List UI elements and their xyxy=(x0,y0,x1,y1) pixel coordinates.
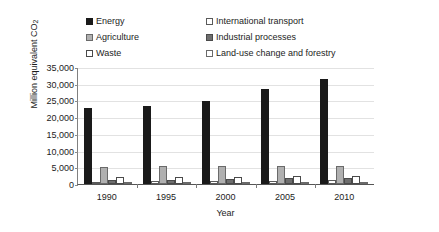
x-axis-title: Year xyxy=(77,208,374,218)
bar xyxy=(143,106,151,184)
y-axis-tick-label: 10,000 xyxy=(46,147,74,156)
legend-item-waste: Waste xyxy=(86,48,206,58)
bar xyxy=(183,182,191,184)
legend-item-energy: Energy xyxy=(86,16,206,26)
legend-label-agriculture: Agriculture xyxy=(96,32,139,42)
bar-chart: Energy International transport Agricultu… xyxy=(0,0,439,232)
y-axis-tick-labels: 35,00030,00025,00020,00015,00010,0005,00… xyxy=(29,68,74,185)
bar xyxy=(328,180,336,184)
bar xyxy=(285,178,293,184)
bar xyxy=(151,181,159,184)
legend-label-waste: Waste xyxy=(96,48,121,58)
bar-group xyxy=(315,68,374,184)
bar xyxy=(293,176,301,184)
x-axis-tick-labels: 19901995200020052010 xyxy=(77,192,374,204)
legend-label-industrial-processes: Industrial processes xyxy=(216,32,296,42)
bar xyxy=(226,179,234,184)
legend-item-agriculture: Agriculture xyxy=(86,32,206,42)
bar xyxy=(234,177,242,184)
bar xyxy=(100,167,108,184)
legend-item-land-use-change-and-forestry: Land-use change and forestry xyxy=(206,48,386,58)
x-axis-tick-label: 2010 xyxy=(315,192,374,204)
bar xyxy=(108,180,116,184)
bar xyxy=(124,182,132,184)
legend-swatch-international-transport xyxy=(206,18,213,25)
y-axis-tick-label: 30,000 xyxy=(46,80,74,89)
bar xyxy=(167,180,175,184)
legend-label-international-transport: International transport xyxy=(216,16,304,26)
bar xyxy=(210,181,218,184)
bar xyxy=(360,182,368,184)
y-axis-tick-label: 20,000 xyxy=(46,114,74,123)
bar xyxy=(277,166,285,184)
bar xyxy=(175,177,183,184)
bar xyxy=(320,79,328,184)
y-axis-tick-label: 0 xyxy=(69,181,74,190)
bar xyxy=(218,166,226,184)
bar-groups xyxy=(78,68,374,184)
y-axis-tick-label: 25,000 xyxy=(46,97,74,106)
y-axis-tick-label: 5,000 xyxy=(51,164,74,173)
plot-area xyxy=(77,68,374,185)
legend-swatch-waste xyxy=(86,50,93,57)
y-axis-tick xyxy=(75,185,78,186)
bar xyxy=(261,89,269,184)
bar-group xyxy=(256,68,315,184)
legend-swatch-industrial-processes xyxy=(206,34,213,41)
bar xyxy=(301,182,309,184)
x-axis-tick xyxy=(256,184,257,188)
bar-group xyxy=(137,68,196,184)
x-axis-tick xyxy=(137,184,138,188)
legend-item-industrial-processes: Industrial processes xyxy=(206,32,386,42)
legend-label-land-use-change-and-forestry: Land-use change and forestry xyxy=(216,48,336,58)
bar xyxy=(352,176,360,184)
bar xyxy=(344,178,352,184)
chart-legend: Energy International transport Agricultu… xyxy=(86,13,386,61)
legend-item-international-transport: International transport xyxy=(206,16,386,26)
x-axis-tick-label: 2000 xyxy=(196,192,255,204)
legend-swatch-agriculture xyxy=(86,34,93,41)
legend-swatch-energy xyxy=(86,18,93,25)
x-axis-tick-label: 1990 xyxy=(77,192,136,204)
x-axis-tick xyxy=(196,184,197,188)
bar xyxy=(242,182,250,184)
legend-swatch-land-use-change-and-forestry xyxy=(206,50,213,57)
y-axis-title-subscript: 2 xyxy=(32,20,39,24)
x-axis-tick-label: 2005 xyxy=(255,192,314,204)
y-axis-tick-label: 15,000 xyxy=(46,130,74,139)
bar xyxy=(159,166,167,184)
bar xyxy=(202,101,210,184)
bar xyxy=(84,108,92,184)
bar-group xyxy=(78,68,137,184)
x-axis-tick xyxy=(315,184,316,188)
bar xyxy=(269,181,277,184)
bar xyxy=(116,177,124,184)
bar-group xyxy=(196,68,255,184)
y-axis-tick-label: 35,000 xyxy=(46,64,74,73)
legend-label-energy: Energy xyxy=(96,16,125,26)
bar xyxy=(336,166,344,184)
x-axis-tick-label: 1995 xyxy=(136,192,195,204)
gridline xyxy=(78,185,374,186)
bar xyxy=(92,182,100,184)
